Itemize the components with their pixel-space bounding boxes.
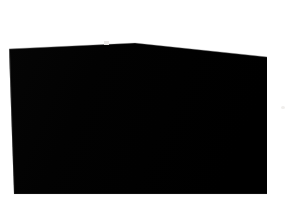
screenshot-frame: Blank black screen: [0, 0, 292, 199]
screen-panel[interactable]: [9, 43, 267, 194]
display-group[interactable]: [9, 43, 267, 194]
screen-photo: [0, 0, 292, 199]
